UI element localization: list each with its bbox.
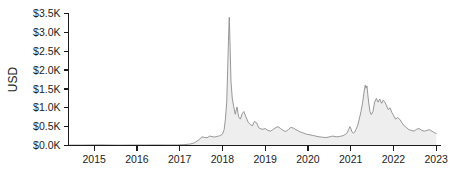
y-axis: $0.0K$0.5K$1.0K$1.5K$2.0K$2.5K$3.0K$3.5K… (6, 7, 69, 151)
x-tick-label: 2023 (425, 153, 449, 165)
x-tick-label: 2019 (254, 153, 278, 165)
y-axis-title: USD (6, 67, 20, 93)
x-tick-label: 2018 (211, 153, 235, 165)
y-tick-label: $3.5K (33, 7, 60, 19)
chart-canvas: $0.0K$0.5K$1.0K$1.5K$2.0K$2.5K$3.0K$3.5K… (0, 0, 465, 175)
x-axis-ticks: 201520162017201820192020202120222023 (82, 146, 448, 165)
y-tick-label: $1.5K (33, 83, 60, 95)
y-tick-label: $0.5K (33, 120, 60, 132)
y-tick-label: $2.0K (33, 64, 60, 76)
y-tick-label: $1.0K (33, 101, 60, 113)
x-tick-label: 2022 (382, 153, 406, 165)
x-tick-label: 2017 (168, 153, 192, 165)
x-tick-label: 2021 (339, 153, 363, 165)
x-axis: 201520162017201820192020202120222023 (69, 146, 449, 165)
y-axis-ticks: $0.0K$0.5K$1.0K$1.5K$2.0K$2.5K$3.0K$3.5K (33, 7, 68, 151)
y-tick-label: $0.0K (33, 139, 60, 151)
y-tick-label: $2.5K (33, 45, 60, 57)
plot-area (69, 17, 437, 145)
y-tick-label: $3.0K (33, 26, 60, 38)
x-tick-label: 2020 (296, 153, 320, 165)
x-tick-label: 2016 (125, 153, 149, 165)
x-tick-label: 2015 (82, 153, 106, 165)
usd-price-area-chart: $0.0K$0.5K$1.0K$1.5K$2.0K$2.5K$3.0K$3.5K… (0, 0, 465, 175)
